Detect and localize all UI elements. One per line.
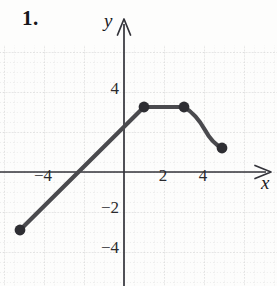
- graph-svg: [0, 0, 277, 286]
- y-tick-label-neg4: −4: [85, 238, 119, 258]
- problem-number: 1.: [22, 6, 39, 31]
- y-tick-label-4: 4: [85, 79, 119, 99]
- x-tick-label-2: 2: [148, 166, 178, 186]
- figure-canvas: 1. y x −4 2 4 4 −2 −4: [0, 0, 277, 286]
- data-point: [15, 225, 26, 236]
- y-axis-label: y: [104, 10, 112, 32]
- data-point: [217, 143, 228, 154]
- data-point: [139, 102, 150, 113]
- x-tick-label-4: 4: [188, 166, 218, 186]
- y-tick-label-neg2: −2: [85, 198, 119, 218]
- x-tick-label-neg4: −4: [28, 166, 58, 186]
- x-axis-label: x: [261, 172, 269, 194]
- data-point: [179, 102, 190, 113]
